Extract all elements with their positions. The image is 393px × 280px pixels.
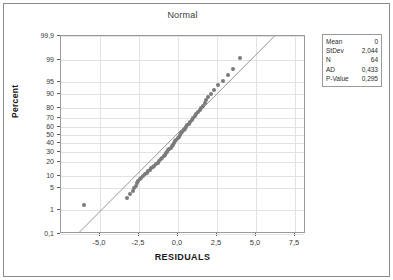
y-tick-label: 0,1 [44, 230, 54, 237]
statistics-box: Mean0StDev2,044N64AD0,433P-Value0,295 [322, 34, 382, 87]
data-point [212, 88, 216, 92]
y-tick-label: 30 [46, 147, 54, 154]
x-axis-title: RESIDUALS [60, 252, 305, 262]
plot-area [60, 35, 305, 233]
chart-title: Normal [60, 10, 305, 20]
y-tick-label: 80 [46, 104, 54, 111]
x-tick-label: 0,0 [172, 238, 182, 247]
data-point [82, 203, 86, 207]
y-tick-label: 70 [46, 114, 54, 121]
y-tick-label: 40 [46, 139, 54, 146]
data-point [216, 83, 220, 87]
data-point [221, 79, 225, 83]
y-tick-label: 99,9 [40, 32, 54, 39]
data-point [226, 73, 230, 77]
y-tick-label: 99 [46, 56, 54, 63]
y-tick-mark [57, 233, 60, 234]
statistic-value: 0,295 [362, 74, 378, 83]
statistic-value: 64 [371, 55, 378, 64]
data-point [125, 196, 129, 200]
x-tick-label: -2,5 [132, 238, 145, 247]
probability-plot-screenshot: Normal Percent RESIDUALS 0,1151020304050… [0, 0, 393, 280]
x-tick-label: 7,5 [289, 238, 299, 247]
x-tick-label: -5,0 [93, 238, 106, 247]
statistics-row: Mean0 [326, 37, 378, 46]
x-tick-label: 2,5 [211, 238, 221, 247]
statistic-value: 0 [374, 37, 378, 46]
y-tick-label: 10 [46, 172, 54, 179]
statistic-value: 0,433 [362, 65, 378, 74]
statistics-row: StDev2,044 [326, 46, 378, 55]
data-point [209, 92, 213, 96]
statistic-key: AD [326, 65, 335, 74]
statistic-key: P-Value [326, 74, 349, 83]
y-tick-label: 95 [46, 78, 54, 85]
y-axis-title: Percent [10, 85, 20, 118]
y-tick-label: 5 [50, 183, 54, 190]
statistic-key: StDev [326, 46, 344, 55]
y-tick-label: 1 [50, 205, 54, 212]
statistic-value: 2,044 [362, 46, 378, 55]
statistics-row: N64 [326, 55, 378, 64]
y-tick-label: 60 [46, 122, 54, 129]
x-tick-label: 5,0 [250, 238, 260, 247]
data-point [238, 56, 242, 60]
y-tick-label: 20 [46, 157, 54, 164]
y-tick-label: 90 [46, 89, 54, 96]
y-tick-label: 50 [46, 131, 54, 138]
statistic-key: Mean [326, 37, 342, 46]
statistics-row: P-Value0,295 [326, 74, 378, 83]
gridline-horizontal [61, 234, 304, 235]
statistic-key: N [326, 55, 331, 64]
statistics-row: AD0,433 [326, 65, 378, 74]
